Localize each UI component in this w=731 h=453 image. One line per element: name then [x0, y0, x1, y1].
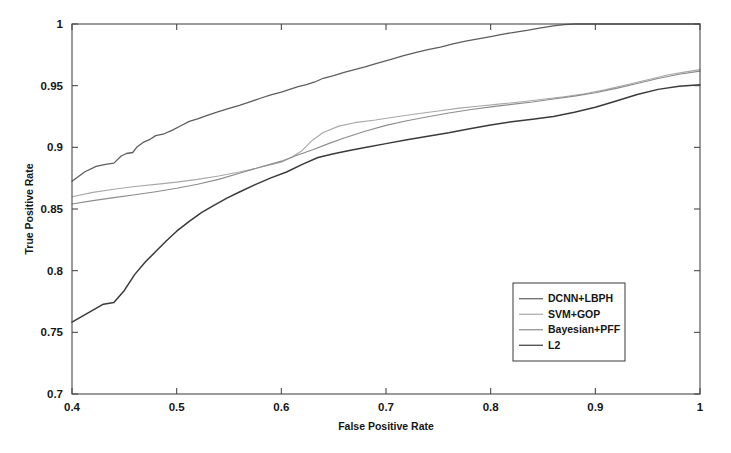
y-tick-label-3: 0.85	[41, 203, 64, 215]
x-axis-title: False Positive Rate	[338, 420, 434, 432]
legend-label-1: SVM+GOP	[548, 308, 600, 320]
y-tick-label-1: 0.75	[41, 326, 64, 338]
y-tick-label-6: 1	[57, 18, 64, 30]
y-tick-label-0: 0.7	[47, 388, 63, 400]
legend-label-0: DCNN+LBPH	[548, 292, 613, 304]
legend-label-2: Bayesian+PFF	[548, 323, 621, 335]
y-axis-title: True Positive Rate	[23, 163, 35, 254]
x-tick-label-4: 0.8	[483, 401, 500, 413]
x-tick-label-5: 0.9	[587, 401, 603, 413]
x-tick-label-0: 0.4	[64, 401, 81, 413]
y-tick-label-5: 0.95	[41, 80, 64, 92]
chart-background	[0, 0, 731, 453]
roc-chart-svg: 0.40.50.60.70.80.910.70.750.80.850.90.95…	[0, 0, 731, 453]
roc-chart-figure: 0.40.50.60.70.80.910.70.750.80.850.90.95…	[0, 0, 731, 453]
x-tick-label-2: 0.6	[273, 401, 289, 413]
x-tick-label-6: 1	[697, 401, 704, 413]
y-tick-label-2: 0.8	[47, 265, 64, 277]
x-tick-label-1: 0.5	[169, 401, 186, 413]
y-tick-label-4: 0.9	[47, 141, 63, 153]
x-tick-label-3: 0.7	[378, 401, 394, 413]
chart-legend: DCNN+LBPHSVM+GOPBayesian+PFFL2	[513, 283, 625, 361]
legend-label-3: L2	[548, 339, 560, 351]
